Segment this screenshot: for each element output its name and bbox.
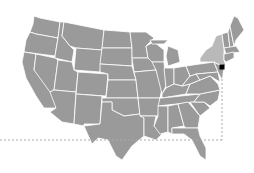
location-marker[interactable] — [220, 65, 225, 70]
state-new-mexico[interactable] — [74, 94, 102, 126]
state-north-dakota[interactable] — [102, 30, 132, 48]
state-connecticut[interactable] — [224, 52, 234, 62]
state-florida[interactable] — [172, 128, 206, 160]
state-wyoming[interactable] — [74, 48, 102, 72]
state-colorado[interactable] — [76, 72, 108, 96]
states-layer — [22, 16, 244, 160]
state-new-york[interactable] — [200, 34, 226, 66]
state-south-dakota[interactable] — [100, 48, 132, 66]
us-map — [0, 0, 254, 173]
state-arkansas[interactable] — [138, 98, 160, 116]
state-kansas[interactable] — [106, 80, 138, 98]
state-wisconsin[interactable] — [146, 42, 164, 62]
